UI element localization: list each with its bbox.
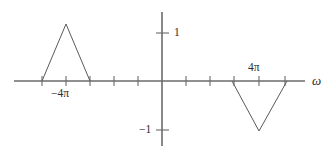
- fourier-transform-figure: 1 −1 −4π 4π ω: [0, 0, 332, 154]
- x-axis-label-negative-4pi: −4π: [51, 88, 69, 100]
- y-axis-label-negative-one: −1: [139, 124, 151, 136]
- y-axis-label-one: 1: [174, 27, 180, 39]
- omega-axis-symbol: ω: [312, 74, 321, 87]
- x-axis-label-4pi: 4π: [248, 62, 260, 74]
- signal-triangle-negative: [232, 81, 287, 131]
- plot-canvas: [0, 0, 332, 154]
- signal-triangle-positive: [42, 24, 90, 81]
